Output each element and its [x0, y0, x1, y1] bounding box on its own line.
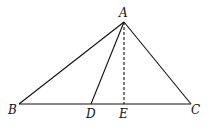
label-e: E [118, 107, 128, 121]
label-a: A [118, 6, 128, 20]
segment-ab [19, 22, 124, 104]
label-c: C [191, 103, 200, 117]
segment-ac [124, 22, 191, 104]
label-b: B [7, 103, 17, 117]
triangle-diagram: A B C D E [0, 0, 210, 135]
label-d: D [85, 107, 96, 121]
